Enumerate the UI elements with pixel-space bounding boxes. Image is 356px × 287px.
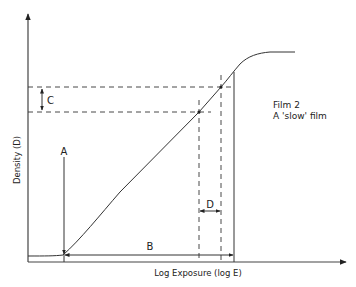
point-lower xyxy=(197,110,200,113)
x-axis-label: Log Exposure (log E) xyxy=(154,268,242,278)
c-label: C xyxy=(47,95,54,106)
film-annotation-line2: A 'slow' film xyxy=(273,111,327,121)
y-axis-label: Density (D) xyxy=(12,136,22,184)
a-label: A xyxy=(61,146,68,157)
b-label: B xyxy=(147,241,154,252)
d-label: D xyxy=(206,199,214,210)
characteristic-curve xyxy=(28,52,295,256)
film-annotation-line1: Film 2 xyxy=(273,100,300,110)
characteristic-curve-diagram: Density (D) Log Exposure (log E) C A B D… xyxy=(0,0,356,287)
point-upper xyxy=(219,85,222,88)
